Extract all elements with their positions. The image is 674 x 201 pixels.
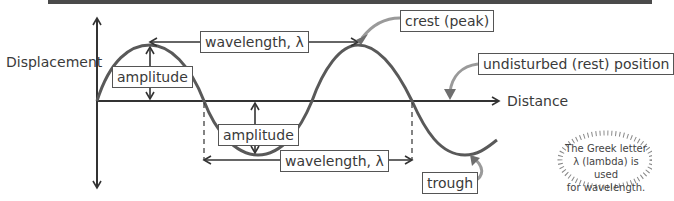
note-line-2: λ (lambda) is used — [560, 155, 652, 181]
amplitude-label-bottom: amplitude — [218, 124, 299, 146]
amplitude-label-top: amplitude — [112, 66, 193, 88]
wavelength-label-bottom: wavelength, λ — [280, 150, 389, 172]
x-axis-label: Distance — [507, 94, 568, 108]
crest-label: crest (peak) — [400, 10, 494, 32]
rest-callout-arrow — [450, 64, 478, 92]
lambda-note: The Greek letter λ (lambda) is used for … — [560, 142, 652, 194]
note-line-3: for wavelength. — [560, 181, 652, 194]
wavelength-label-top: wavelength, λ — [200, 31, 309, 53]
trough-label: trough — [422, 172, 478, 194]
y-axis-label: Displacement — [6, 55, 102, 69]
rest-callout-head — [444, 89, 456, 100]
crest-callout-arrow — [362, 18, 400, 38]
note-line-1: The Greek letter — [560, 142, 652, 155]
rest-position-label: undisturbed (rest) position — [478, 53, 674, 75]
